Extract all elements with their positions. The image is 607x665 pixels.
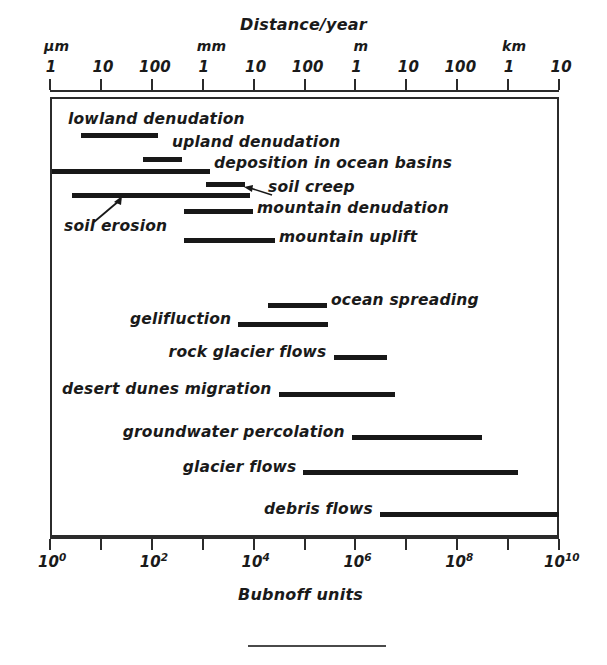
top-axis-tick xyxy=(304,79,306,90)
top-axis-tick xyxy=(456,79,458,90)
series-label: rock glacier flows xyxy=(169,343,327,361)
range-bar xyxy=(380,512,559,517)
top-axis-unit-label: mm xyxy=(197,38,227,54)
range-bar xyxy=(268,303,327,308)
top-axis-tick-label: 1 xyxy=(351,58,362,76)
bottom-axis-tick-label: 100 xyxy=(38,553,66,571)
top-axis-tick xyxy=(405,79,407,90)
figure-root: Distance/year μmmmmkm 110100110100110100… xyxy=(0,0,607,665)
bottom-axis-tick xyxy=(202,539,204,550)
top-axis-tick xyxy=(202,79,204,90)
bottom-axis-tick xyxy=(507,539,509,550)
top-axis-tick-label: 100 xyxy=(444,58,476,76)
range-bar xyxy=(303,470,518,475)
bottom-axis-tick xyxy=(405,539,407,550)
bottom-axis-tick xyxy=(354,539,356,550)
series-label: upland denudation xyxy=(172,133,340,151)
bottom-axis-tick-label: 104 xyxy=(242,553,270,571)
bottom-axis-tick xyxy=(558,539,560,550)
range-bar xyxy=(52,169,210,174)
top-axis-tick xyxy=(507,79,509,90)
range-bar xyxy=(279,392,396,397)
top-axis-unit-label: km xyxy=(502,38,526,54)
bottom-axis-title: Bubnoff units xyxy=(238,585,363,604)
bottom-axis-tick-label: 1010 xyxy=(544,553,580,571)
range-bar xyxy=(143,157,182,162)
range-bar xyxy=(238,322,328,327)
bottom-axis-tick xyxy=(253,539,255,550)
series-label: mountain denudation xyxy=(257,199,449,217)
top-axis-tick-label: 1 xyxy=(198,58,209,76)
range-bar xyxy=(81,133,159,138)
series-label: desert dunes migration xyxy=(62,380,272,398)
series-label: deposition in ocean basins xyxy=(214,154,452,172)
series-label: debris flows xyxy=(264,500,373,518)
range-bar xyxy=(184,238,275,243)
bottom-axis-tick xyxy=(49,539,51,550)
top-axis-tick xyxy=(253,79,255,90)
top-axis-tick-label: 1 xyxy=(46,58,57,76)
top-axis-tick-label: 1 xyxy=(504,58,515,76)
top-axis-tick-label: 10 xyxy=(245,58,266,76)
range-bar xyxy=(352,435,482,440)
bottom-axis-tick-label: 102 xyxy=(140,553,168,571)
top-axis-tick xyxy=(49,79,51,90)
series-label: ocean spreading xyxy=(331,291,479,309)
top-axis-tick-label: 10 xyxy=(92,58,113,76)
top-axis-tick xyxy=(558,79,560,90)
bottom-axis-tick-label: 108 xyxy=(445,553,473,571)
top-axis-tick xyxy=(354,79,356,90)
series-label: glacier flows xyxy=(183,458,297,476)
top-axis-tick xyxy=(151,79,153,90)
top-axis-tick-label: 100 xyxy=(139,58,171,76)
series-label: lowland denudation xyxy=(68,110,245,128)
soil-erosion-leader-arrow-icon xyxy=(92,196,130,224)
soil-creep-leader-arrow-icon xyxy=(244,185,274,199)
top-axis-tick xyxy=(100,79,102,90)
series-label: gelifluction xyxy=(130,310,231,328)
series-label: soil creep xyxy=(268,178,355,196)
top-axis-line xyxy=(50,90,559,92)
series-label: groundwater percolation xyxy=(123,423,345,441)
range-bar xyxy=(334,355,387,360)
footer-divider xyxy=(248,645,386,647)
bottom-axis-tick xyxy=(151,539,153,550)
bottom-axis-tick xyxy=(456,539,458,550)
top-axis-unit-label: m xyxy=(353,38,368,54)
range-bar xyxy=(206,182,245,187)
range-bar xyxy=(184,209,253,214)
top-axis-unit-label: μm xyxy=(44,38,69,54)
series-label: mountain uplift xyxy=(279,228,417,246)
bottom-axis-tick xyxy=(304,539,306,550)
bottom-axis-tick-label: 106 xyxy=(343,553,371,571)
bottom-axis-tick xyxy=(100,539,102,550)
top-axis-tick-label: 100 xyxy=(292,58,324,76)
top-axis-title: Distance/year xyxy=(240,15,367,34)
top-axis-tick-label: 10 xyxy=(551,58,572,76)
top-axis-tick-label: 10 xyxy=(398,58,419,76)
